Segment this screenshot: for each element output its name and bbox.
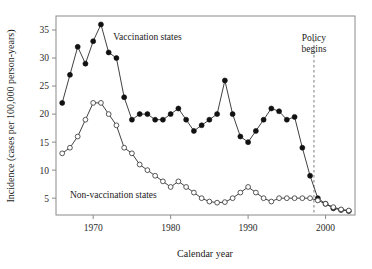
data-point <box>122 145 127 150</box>
data-point <box>261 117 266 122</box>
data-point <box>246 185 251 190</box>
data-point <box>83 117 88 122</box>
data-point <box>129 117 134 122</box>
data-point <box>215 112 220 117</box>
data-point <box>106 112 111 117</box>
data-point <box>300 145 305 150</box>
data-point <box>91 39 96 44</box>
data-point <box>83 61 88 66</box>
data-point <box>207 199 212 204</box>
data-point <box>253 190 258 195</box>
x-tick-label: 1970 <box>84 223 103 233</box>
data-point <box>137 112 142 117</box>
data-point <box>315 198 320 203</box>
data-point <box>114 56 119 61</box>
data-point <box>346 208 351 213</box>
data-point <box>238 134 243 139</box>
data-point <box>75 44 80 49</box>
data-point <box>199 196 204 201</box>
x-tick-label: 1990 <box>239 223 258 233</box>
y-tick-label: 30 <box>40 53 50 63</box>
data-point <box>98 22 103 27</box>
y-tick-label: 5 <box>44 194 49 204</box>
y-tick-label: 10 <box>40 166 50 176</box>
y-tick-label: 35 <box>40 25 50 35</box>
x-axis-title: Calendar year <box>177 248 233 259</box>
y-tick-label: 20 <box>40 109 50 119</box>
data-point <box>261 196 266 201</box>
data-point <box>176 179 181 184</box>
data-point <box>99 100 104 105</box>
data-point <box>60 100 65 105</box>
data-point <box>308 196 313 201</box>
series-label-vaccination-states: Vaccination states <box>113 32 182 42</box>
data-point <box>222 200 227 205</box>
data-point <box>308 173 313 178</box>
data-point <box>339 207 344 212</box>
data-point <box>75 134 80 139</box>
data-point <box>230 196 235 201</box>
data-point <box>269 199 274 204</box>
data-point <box>114 123 119 128</box>
data-point <box>184 185 189 190</box>
incidence-chart: 5101520253035 1970198019902000 Policy be… <box>0 0 372 269</box>
data-point <box>153 117 158 122</box>
data-point <box>222 78 227 83</box>
data-point <box>246 140 251 145</box>
data-point <box>331 205 336 210</box>
y-tick-label: 15 <box>40 138 50 148</box>
data-point <box>277 109 282 114</box>
data-point <box>284 196 289 201</box>
data-point <box>122 95 127 100</box>
x-tick-label: 1980 <box>161 223 180 233</box>
data-point <box>300 196 305 201</box>
data-point <box>168 112 173 117</box>
data-point <box>153 173 158 178</box>
chart-canvas: 5101520253035 1970198019902000 Policy be… <box>0 0 372 269</box>
data-point <box>137 162 142 167</box>
data-point <box>106 50 111 55</box>
data-point <box>176 106 181 111</box>
data-point <box>160 117 165 122</box>
data-point <box>145 168 150 173</box>
data-point <box>230 112 235 117</box>
data-point <box>215 200 220 205</box>
data-point <box>68 145 73 150</box>
data-point <box>161 179 166 184</box>
data-point <box>184 117 189 122</box>
series-label-non-vaccination-states: Non-vaccination states <box>70 190 157 200</box>
y-axis-title: Incidence (cases per 100,000 person-year… <box>5 30 17 203</box>
data-point <box>292 114 297 119</box>
y-tick-label: 25 <box>40 81 50 91</box>
data-point <box>292 196 297 201</box>
data-point <box>277 196 282 201</box>
data-point <box>191 190 196 195</box>
data-point <box>323 201 328 206</box>
x-tick-label: 2000 <box>316 223 335 233</box>
data-point <box>91 100 96 105</box>
policy-begins-label-line1: Policy <box>302 33 327 43</box>
data-point <box>238 190 243 195</box>
data-point <box>191 128 196 133</box>
data-point <box>269 106 274 111</box>
data-point <box>199 123 204 128</box>
data-point <box>207 117 212 122</box>
policy-begins-label-line2: begins <box>302 44 327 54</box>
data-point <box>130 151 135 156</box>
data-point <box>253 128 258 133</box>
data-point <box>168 185 173 190</box>
data-point <box>145 112 150 117</box>
data-point <box>284 117 289 122</box>
data-point <box>60 151 65 156</box>
data-point <box>67 72 72 77</box>
